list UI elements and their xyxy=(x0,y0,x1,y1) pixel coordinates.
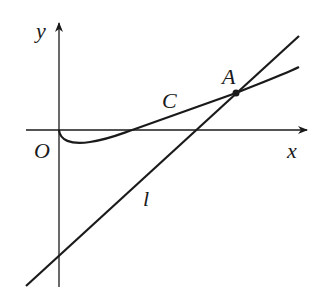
point-a xyxy=(233,90,240,97)
origin-label: O xyxy=(34,138,50,163)
curve-c xyxy=(59,67,299,143)
line-l-label: l xyxy=(143,186,149,211)
line-l xyxy=(26,36,299,286)
curve-c-label: C xyxy=(162,88,177,113)
x-axis-label: x xyxy=(286,138,297,163)
diagram-canvas: y x O C l A xyxy=(0,0,324,291)
point-a-label: A xyxy=(220,64,236,89)
y-axis-label: y xyxy=(34,18,46,43)
